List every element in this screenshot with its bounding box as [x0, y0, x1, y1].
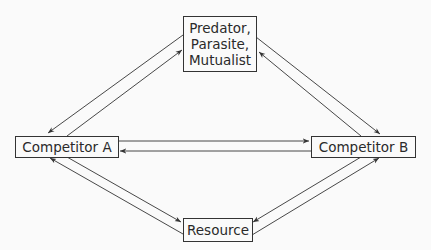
- interaction-diagram: Predator, Parasite, Mutualist Competitor…: [0, 0, 431, 250]
- edge-competitor-b-to-top: [259, 52, 361, 136]
- node-competitor-a: Competitor A: [15, 136, 119, 158]
- edge-resource-to-competitor-b: [252, 158, 379, 235]
- edge-competitor-a-to-resource: [67, 157, 181, 222]
- node-predator-parasite-mutualist: Predator, Parasite, Mutualist: [183, 16, 257, 72]
- edge-competitor-b-to-resource: [253, 157, 361, 222]
- node-resource: Resource: [183, 218, 253, 242]
- edge-competitor-a-to-top: [67, 50, 182, 136]
- node-label: Resource: [187, 222, 249, 238]
- node-competitor-b: Competitor B: [311, 136, 416, 158]
- edge-top-to-competitor-b: [256, 37, 380, 134]
- edge-resource-to-competitor-a: [50, 158, 183, 234]
- node-label: Predator, Parasite, Mutualist: [189, 20, 251, 68]
- node-label: Competitor B: [319, 139, 408, 155]
- node-label: Competitor A: [22, 139, 111, 155]
- edge-top-to-competitor-a: [48, 35, 183, 133]
